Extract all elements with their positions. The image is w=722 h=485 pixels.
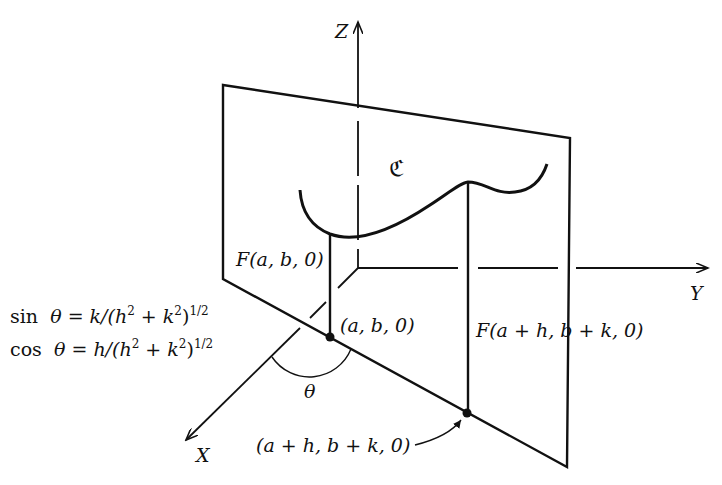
cos-prefix: cos	[10, 338, 42, 360]
pointer-arrow	[415, 420, 461, 445]
cos-mid: + k	[139, 338, 179, 360]
point-ahbk0-label: (a + h, b + k, 0)	[256, 436, 410, 455]
y-axis-label: Y	[690, 284, 703, 303]
sin-exp-half: 1/2	[189, 304, 208, 318]
sin-body: θ = k/(h	[50, 305, 127, 327]
x-axis-label: X	[196, 446, 210, 465]
diagram-canvas	[0, 0, 722, 485]
sin-prefix: sin	[10, 305, 38, 327]
vertical-plane	[223, 85, 570, 467]
point-ahbk0	[463, 409, 472, 418]
z-axis-label: Z	[335, 22, 348, 41]
sin-mid: + k	[135, 305, 175, 327]
sin-exp-h: 2	[127, 304, 135, 318]
cos-exp-half: 1/2	[194, 337, 213, 351]
angle-theta-label: θ	[304, 382, 315, 401]
cos-body: θ = h/(h	[54, 338, 132, 360]
cos-equation: cos θ = h/(h2 + k2)1/2	[10, 338, 213, 359]
sin-exp-k: 2	[174, 304, 182, 318]
point-ab0	[326, 333, 335, 342]
curve-c	[300, 164, 547, 237]
cos-end: )	[186, 338, 193, 360]
f-ahbk0-label: F(a + h, b + k, 0)	[476, 321, 644, 340]
curve-c-label: ℭ	[389, 158, 404, 180]
angle-arc	[272, 349, 351, 377]
point-ab0-label: (a, b, 0)	[340, 316, 415, 335]
f-ab0-label: F(a, b, 0)	[236, 250, 324, 269]
sin-equation: sin θ = k/(h2 + k2)1/2	[10, 305, 209, 326]
